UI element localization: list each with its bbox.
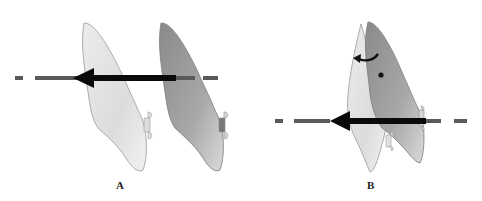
panel-a xyxy=(15,23,228,171)
tooth-moved-a xyxy=(160,23,224,171)
panel-label-a: A xyxy=(116,179,124,191)
tooth-original-a xyxy=(83,23,147,171)
diagram-canvas xyxy=(0,0,482,201)
bracket-icon xyxy=(386,132,393,151)
panel-b xyxy=(275,22,467,172)
center-of-resistance-dot xyxy=(378,72,383,77)
panel-label-b: B xyxy=(367,179,374,191)
